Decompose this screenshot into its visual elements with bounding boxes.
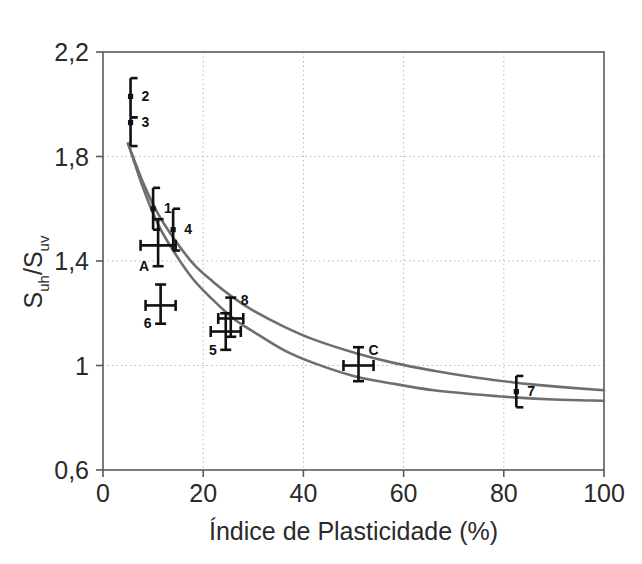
point-label: 3	[142, 114, 150, 130]
chart-figure: 2314A685C7 020406080100 0,611,41,82,2 Ín…	[0, 0, 642, 564]
x-tick-label: 20	[189, 479, 217, 507]
point-label: 2	[142, 88, 150, 104]
marker-square	[514, 389, 519, 394]
point-label: 5	[209, 342, 217, 358]
point-label: 6	[144, 315, 152, 331]
y-tick-label: 0,6	[54, 456, 89, 484]
x-axis-title: Índice de Plasticidade (%)	[209, 517, 498, 545]
x-tick-label: 60	[390, 479, 418, 507]
point-label: 7	[527, 383, 535, 399]
x-tick-label: 40	[289, 479, 317, 507]
y-tick-label: 2,2	[54, 38, 89, 66]
marker-square	[128, 120, 133, 125]
y-tick-label: 1	[75, 352, 89, 380]
marker-square	[171, 227, 176, 232]
point-label: A	[139, 258, 149, 274]
point-label: 8	[241, 292, 249, 308]
point-label: 4	[184, 221, 192, 237]
x-axis-title-text: Índice de Plasticidade (%)	[209, 517, 498, 545]
x-tick-label: 0	[96, 479, 110, 507]
plot-canvas: 2314A685C7 020406080100 0,611,41,82,2 Ín…	[0, 0, 642, 564]
x-tick-label: 80	[490, 479, 518, 507]
x-tick-label: 100	[583, 479, 625, 507]
y-tick-label: 1,8	[54, 143, 89, 171]
point-label: 1	[164, 200, 172, 216]
marker-square	[151, 206, 156, 211]
point-label: C	[369, 342, 379, 358]
y-tick-label: 1,4	[54, 247, 89, 275]
marker-square	[128, 94, 133, 99]
